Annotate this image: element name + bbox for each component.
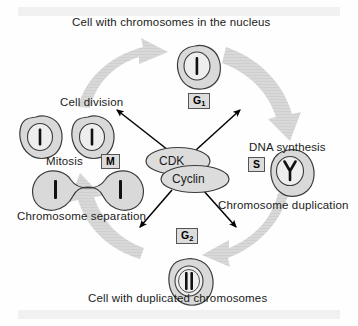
caption-bottom: Cell with duplicated chromosomes bbox=[88, 292, 267, 304]
phase-box-g1-letter: G bbox=[193, 94, 201, 106]
s-cell bbox=[271, 150, 314, 197]
caption-cell-division: Cell division bbox=[60, 96, 123, 108]
daughter-cell-left bbox=[20, 116, 62, 158]
cdk-arrow-to-dna-synthesis bbox=[196, 110, 240, 150]
cyclin-label: Cyclin bbox=[172, 172, 205, 186]
phase-box-m-letter: M bbox=[106, 155, 115, 167]
phase-box-g2-subscript: 2 bbox=[189, 234, 193, 243]
caption-chromosome-separation: Chromosome separation bbox=[17, 210, 146, 222]
phase-box-g1-subscript: 1 bbox=[201, 99, 205, 108]
phase-box-s: S bbox=[248, 157, 265, 172]
cdk-arrow-to-cell-division bbox=[117, 110, 168, 150]
phase-box-m: M bbox=[101, 154, 120, 169]
phase-box-g1: G1 bbox=[188, 93, 210, 109]
phase-box-s-letter: S bbox=[253, 158, 260, 170]
phase-box-g2: G2 bbox=[176, 228, 198, 244]
cell-cycle-diagram: Cell with chromosomes in the nucleus Cel… bbox=[0, 0, 358, 326]
phase-box-g2-letter: G bbox=[181, 229, 189, 241]
caption-dna-synthesis: DNA synthesis bbox=[249, 141, 326, 153]
caption-top: Cell with chromosomes in the nucleus bbox=[72, 16, 270, 28]
caption-mitosis: Mitosis bbox=[46, 155, 83, 167]
g1-cell bbox=[177, 45, 220, 89]
cycle-arrow-g1-to-s bbox=[222, 47, 301, 141]
daughter-cell-right bbox=[72, 116, 114, 158]
cdk-label: CDK bbox=[159, 154, 184, 168]
caption-chromosome-duplication: Chromosome duplication bbox=[218, 199, 349, 211]
